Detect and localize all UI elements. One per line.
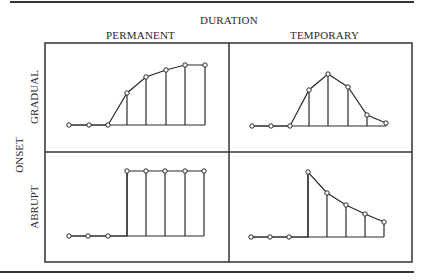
data-point-marker (384, 121, 388, 125)
data-point-marker (365, 113, 369, 117)
data-point-marker (106, 123, 110, 127)
data-point-marker (164, 68, 168, 72)
data-point-marker (163, 169, 167, 173)
panel-abrupt-permanent (67, 169, 206, 238)
data-point-marker (67, 123, 71, 127)
data-point-marker (346, 85, 350, 89)
data-point-marker (306, 170, 310, 174)
data-point-marker (287, 235, 291, 239)
data-point-marker (269, 124, 273, 128)
panel-gradual-temporary (250, 72, 388, 128)
data-point-marker (250, 124, 254, 128)
data-point-marker (288, 124, 292, 128)
data-point-marker (363, 212, 367, 216)
data-point-marker (125, 91, 129, 95)
data-point-marker (106, 234, 110, 238)
grid-frame (45, 43, 412, 262)
data-point-marker (144, 169, 148, 173)
response-curve (251, 172, 384, 237)
data-point-marker (249, 235, 253, 239)
data-point-marker (86, 234, 90, 238)
data-point-marker (203, 63, 207, 67)
response-curve (69, 171, 204, 236)
data-point-marker (344, 203, 348, 207)
data-point-marker (87, 123, 91, 127)
data-point-marker (183, 63, 187, 67)
data-point-marker (202, 169, 206, 173)
data-point-marker (325, 191, 329, 195)
panel-abrupt-temporary (249, 170, 386, 239)
data-point-marker (307, 88, 311, 92)
data-point-marker (382, 220, 386, 224)
data-point-marker (144, 75, 148, 79)
response-curve (252, 74, 386, 126)
data-point-marker (67, 234, 71, 238)
data-point-marker (125, 169, 129, 173)
data-point-marker (183, 169, 187, 173)
panel-gradual-permanent (67, 63, 207, 127)
data-point-marker (268, 235, 272, 239)
data-point-marker (326, 72, 330, 76)
onset-duration-grid (0, 0, 424, 280)
